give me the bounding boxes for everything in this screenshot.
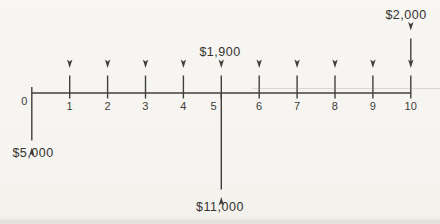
up-arrow-head-period-7 — [294, 60, 299, 69]
tick-label-9: 9 — [370, 101, 376, 112]
tick-label-6: 6 — [256, 101, 262, 112]
up-arrow-head-period-5 — [219, 60, 224, 69]
up-arrow-head-period-8 — [332, 60, 337, 69]
tick-label-3: 3 — [142, 101, 148, 112]
up-arrow-head-final — [408, 22, 413, 31]
up-arrow-head-period-9 — [370, 60, 375, 69]
outflow-at-0-label: $5,000 — [12, 147, 53, 161]
up-arrow-head-period-4 — [181, 60, 186, 69]
scan-artifact-line — [252, 88, 440, 89]
tick-label-0: 0 — [21, 96, 27, 107]
up-arrow-head-period-2 — [105, 60, 110, 69]
up-arrow-head-period-6 — [257, 60, 262, 69]
scan-artifact-band — [0, 217, 440, 224]
inflow-at-10-label: $2,000 — [385, 9, 426, 23]
tick-label-4: 4 — [180, 101, 186, 112]
tick-label-8: 8 — [332, 101, 338, 112]
tick-label-7: 7 — [294, 101, 300, 112]
up-arrow-head-period-3 — [143, 60, 148, 69]
outflow-at-5-label: $11,000 — [196, 201, 244, 215]
tick-label-2: 2 — [104, 101, 110, 112]
cash-flow-diagram: $1,900 $2,000 $5,000 $11,000 01234567891… — [0, 0, 440, 224]
up-arrow-head-period-1 — [67, 60, 72, 69]
tick-label-5: 5 — [211, 101, 217, 112]
tick-label-10: 10 — [404, 101, 417, 112]
tick-label-1: 1 — [66, 101, 72, 112]
annual-inflow-label: $1,900 — [199, 46, 240, 60]
diagram-canvas — [0, 0, 440, 224]
